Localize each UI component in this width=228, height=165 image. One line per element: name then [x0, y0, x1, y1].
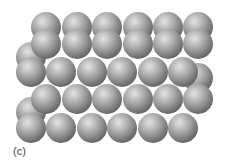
sphere — [123, 84, 153, 114]
sphere — [92, 84, 122, 114]
sphere — [153, 84, 183, 114]
figure-caption: (c) — [13, 145, 26, 157]
sphere — [16, 113, 46, 143]
sphere — [107, 57, 137, 87]
sphere — [62, 29, 92, 59]
sphere — [31, 29, 61, 59]
sphere-packing-diagram — [0, 0, 228, 165]
sphere — [138, 57, 168, 87]
sphere — [183, 84, 213, 114]
sphere — [16, 57, 46, 87]
sphere — [92, 29, 122, 59]
sphere — [183, 29, 213, 59]
sphere — [46, 113, 76, 143]
sphere — [46, 57, 76, 87]
sphere — [77, 57, 107, 87]
sphere — [168, 57, 198, 87]
sphere — [31, 84, 61, 114]
sphere — [168, 113, 198, 143]
sphere — [77, 113, 107, 143]
sphere — [62, 84, 92, 114]
sphere — [107, 113, 137, 143]
sphere — [123, 29, 153, 59]
sphere-layer — [16, 12, 213, 143]
sphere — [138, 113, 168, 143]
sphere — [153, 29, 183, 59]
